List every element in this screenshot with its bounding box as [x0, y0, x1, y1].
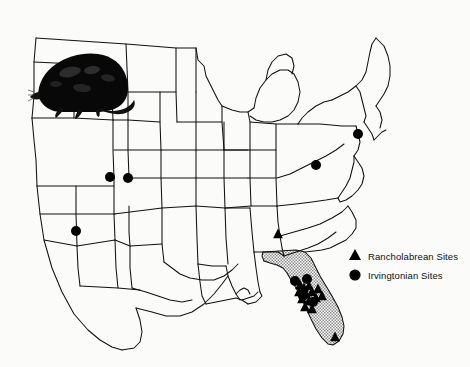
legend-label-irvingtonian: Irvingtonian Sites: [368, 270, 443, 281]
map-background: [0, 0, 470, 367]
legend-label-rancholabrean: Rancholabrean Sites: [368, 251, 458, 262]
fossil-site-distribution-map: Rancholabrean Sites Irvingtonian Sites: [0, 0, 470, 367]
circle-icon: [349, 269, 360, 280]
